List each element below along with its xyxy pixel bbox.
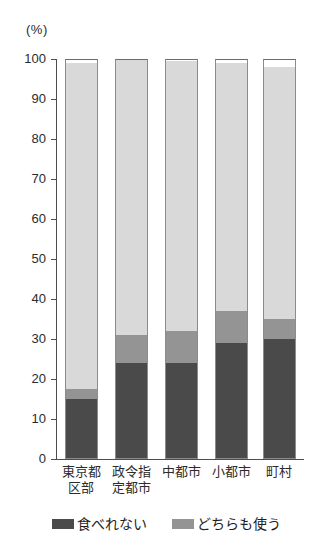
- bar-segment: [115, 363, 148, 459]
- legend-swatch-icon: [52, 519, 74, 529]
- plot-area: [56, 59, 303, 459]
- y-axis-tick-label: 60: [6, 212, 46, 225]
- x-axis-label-line: 区部: [53, 480, 109, 496]
- x-axis-label-5: 町村: [251, 464, 307, 480]
- y-axis-tick-label: 80: [6, 132, 46, 145]
- stacked-bar-chart: (%) 0102030405060708090100 東京都区部政令指定都市中都…: [0, 0, 309, 538]
- bar-segment: [65, 389, 98, 399]
- y-axis-tick-label: 50: [6, 252, 46, 265]
- legend-swatch-icon: [172, 519, 194, 529]
- bar-segment: [263, 59, 296, 67]
- bar-segment: [115, 335, 148, 363]
- x-axis-label-1: 東京都区部: [53, 464, 109, 496]
- legend-item-1: 食べれない: [52, 516, 147, 532]
- bar-segment: [263, 67, 296, 319]
- y-axis-tick-label: 90: [6, 92, 46, 105]
- x-axis-label-line: 中都市: [153, 464, 209, 480]
- x-axis-category-labels: 東京都区部政令指定都市中都市小都市町村: [56, 464, 306, 508]
- bar-5: [263, 59, 296, 459]
- x-axis-label-line: 東京都: [53, 464, 109, 480]
- bar-segment: [215, 63, 248, 311]
- x-axis-label-2: 政令指定都市: [103, 464, 159, 496]
- y-axis-tick-label: 30: [6, 332, 46, 345]
- bar-segment: [165, 363, 198, 459]
- y-axis-tick-label: 70: [6, 172, 46, 185]
- y-axis-tick-label: 10: [6, 412, 46, 425]
- bar-2: [115, 59, 148, 459]
- bar-segment: [263, 319, 296, 339]
- legend-label: どちらも使う: [197, 516, 281, 532]
- bar-segment: [215, 311, 248, 343]
- x-axis-label-3: 中都市: [153, 464, 209, 480]
- bar-segment: [215, 343, 248, 459]
- bar-3: [165, 59, 198, 459]
- legend-label: 食べれない: [77, 516, 147, 532]
- legend-item-2: どちらも使う: [172, 516, 281, 532]
- y-axis-tick-label: 100: [6, 52, 46, 65]
- bar-segment: [165, 61, 198, 331]
- y-axis-unit-label: (%): [26, 22, 48, 37]
- bar-1: [65, 59, 98, 459]
- chart-legend: 食べれないどちらも使う: [0, 516, 309, 538]
- x-axis-label-line: 町村: [251, 464, 307, 480]
- y-axis-tick-label: 20: [6, 372, 46, 385]
- x-axis-line: [56, 459, 304, 460]
- bar-4: [215, 59, 248, 459]
- bar-segment: [115, 59, 148, 335]
- bar-segment: [165, 331, 198, 363]
- y-axis-tick: [51, 459, 57, 460]
- y-axis-tick-label: 0: [6, 452, 46, 465]
- y-axis-tick-label: 40: [6, 292, 46, 305]
- bar-segment: [263, 339, 296, 459]
- x-axis-label-line: 政令指: [103, 464, 159, 480]
- x-axis-label-line: 定都市: [103, 480, 159, 496]
- bar-segment: [65, 399, 98, 459]
- bar-segment: [65, 63, 98, 389]
